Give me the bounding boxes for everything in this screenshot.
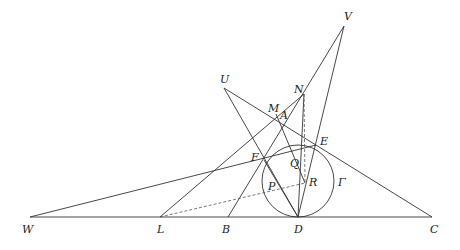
point-label-A: A [280, 110, 288, 121]
point-label-V: V [344, 11, 352, 22]
point-label-N: N [294, 84, 304, 95]
point-label-E: E [320, 136, 328, 147]
point-label-W: W [22, 224, 33, 235]
point-label-L: L [157, 224, 164, 235]
geometry-diagram: WLBDCVUNMAEFQPRΓ [0, 0, 460, 250]
point-label-D: D [294, 224, 303, 235]
point-label-C: C [430, 224, 438, 235]
point-label-M: M [268, 103, 279, 114]
diagram-drawing [0, 0, 460, 250]
point-label-F: F [251, 152, 259, 163]
point-label-R: R [309, 177, 317, 188]
point-label-Q: Q [290, 158, 299, 169]
point-label-B: B [222, 224, 230, 235]
point-label-P: P [268, 181, 275, 192]
segment-ND [298, 94, 304, 217]
dashed-segment-LR [160, 183, 305, 217]
point-label-U: U [220, 74, 229, 85]
point-label-Gamma: Γ [338, 177, 346, 188]
